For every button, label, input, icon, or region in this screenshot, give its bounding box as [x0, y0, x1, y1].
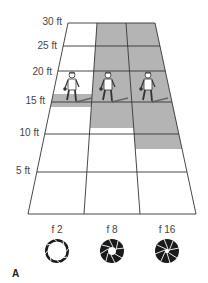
dof-zone-f2	[50, 94, 92, 107]
aperture-f8-icon	[100, 239, 124, 263]
figure-label: A	[12, 268, 19, 279]
distance-label-30: 30 ft	[22, 16, 62, 27]
distance-label-25: 25 ft	[17, 40, 57, 51]
distance-label-15: 15 ft	[5, 95, 45, 106]
distance-label-5: 5 ft	[0, 165, 30, 176]
distance-label-20: 20 ft	[12, 66, 52, 77]
aperture-label-f16: f 16	[147, 224, 187, 235]
aperture-label-f8: f 8	[92, 224, 132, 235]
aperture-f16-icon	[155, 239, 179, 263]
aperture-f2-icon	[45, 239, 69, 263]
distance-label-10: 10 ft	[0, 127, 39, 138]
aperture-label-f2: f 2	[37, 224, 77, 235]
